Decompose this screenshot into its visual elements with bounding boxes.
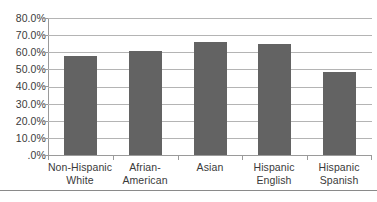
gridline-70 <box>48 35 372 36</box>
x-axis-category-label-non-hispanic-white: Non-Hispanic White <box>44 161 116 187</box>
bar-afrian-american <box>129 51 162 155</box>
bar-asian <box>194 42 227 155</box>
y-axis-tick-label: 80.0% <box>16 13 46 24</box>
y-axis-tick-label: 70.0% <box>16 30 46 41</box>
x-axis-category-label-asian: Asian <box>174 161 246 174</box>
x-axis-line <box>48 155 372 156</box>
bar-hispanic-spanish <box>323 72 356 155</box>
x-axis-category-line: Asian <box>174 161 246 174</box>
x-axis-category-line: Spanish <box>303 174 375 187</box>
x-axis-category-label-hispanic-english: Hispanic English <box>238 161 310 187</box>
x-axis-category-line: Hispanic <box>238 161 310 174</box>
y-axis-tick-label: 40.0% <box>16 81 46 92</box>
bar-chart-figure: 80.0% 70.0% 60.0% 50.0% 40.0% 30.0% 20.0… <box>0 0 377 202</box>
x-axis-category-line: Non-Hispanic <box>44 161 116 174</box>
y-axis-tick-label: 60.0% <box>16 47 46 58</box>
x-axis-category-label-hispanic-spanish: Hispanic Spanish <box>303 161 375 187</box>
x-axis-tick-mark <box>178 156 179 160</box>
y-axis-tick-label: 10.0% <box>16 133 46 144</box>
x-axis-tick-mark <box>307 156 308 160</box>
bar-hispanic-english <box>258 44 291 155</box>
x-axis-category-label-afrian-american: Afrian- American <box>109 161 181 187</box>
x-axis-tick-mark <box>48 156 49 160</box>
x-axis-category-line: English <box>238 174 310 187</box>
gridline-80 <box>48 18 372 19</box>
page-separator-rule <box>0 190 377 191</box>
y-axis-tick-label: 20.0% <box>16 116 46 127</box>
y-axis-tick-label: 30.0% <box>16 99 46 110</box>
plot-area <box>48 18 372 155</box>
x-axis-category-line: Hispanic <box>303 161 375 174</box>
x-axis-tick-mark <box>242 156 243 160</box>
y-axis-tick-label: 50.0% <box>16 64 46 75</box>
x-axis-category-line: American <box>109 174 181 187</box>
x-axis-tick-mark <box>371 156 372 160</box>
x-axis-tick-mark <box>113 156 114 160</box>
x-axis-category-line: White <box>44 174 116 187</box>
bar-non-hispanic-white <box>64 56 97 155</box>
x-axis-category-line: Afrian- <box>109 161 181 174</box>
